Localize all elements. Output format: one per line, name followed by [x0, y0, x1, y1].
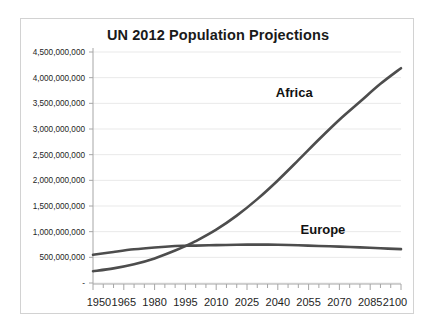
y-tick-label: 1,500,000,000: [33, 202, 86, 211]
y-tick-label: 2,500,000,000: [33, 151, 86, 160]
x-tick-label: 1995: [173, 296, 197, 308]
y-tick-label: 2,000,000,000: [33, 176, 86, 185]
y-tick-label: -: [82, 279, 85, 288]
x-tick-label: 2100: [383, 296, 407, 308]
series-label-africa: Africa: [276, 85, 314, 100]
population-line-chart: -500,000,0001,000,000,0001,500,000,0002,…: [21, 19, 415, 315]
series-label-europe: Europe: [301, 222, 346, 237]
series-annotations-group: AfricaEurope: [276, 85, 346, 237]
data-series-group: [93, 68, 401, 271]
y-tick-label: 4,000,000,000: [33, 74, 86, 83]
x-tick-label: 2055: [296, 296, 320, 308]
y-axis-tick-labels: -500,000,0001,000,000,0001,500,000,0002,…: [33, 48, 86, 288]
x-tick-label: 2070: [327, 296, 351, 308]
x-tick-label: 1950: [87, 296, 111, 308]
y-axis-tick-marks: [89, 52, 93, 283]
y-tick-label: 3,500,000,000: [33, 99, 86, 108]
y-tick-label: 500,000,000: [39, 253, 85, 262]
y-tick-label: 1,000,000,000: [33, 228, 86, 237]
y-tick-label: 3,000,000,000: [33, 125, 86, 134]
x-tick-label: 1965: [112, 296, 136, 308]
x-tick-label: 2025: [235, 296, 259, 308]
series-line-europe: [93, 245, 401, 255]
x-tick-label: 1980: [142, 296, 166, 308]
x-axis-tick-marks: [93, 284, 401, 290]
x-axis-tick-labels: 1950196519801995201020252040205520702085…: [87, 296, 407, 308]
x-tick-label: 2085: [358, 296, 382, 308]
y-tick-label: 4,500,000,000: [33, 48, 86, 57]
x-tick-label: 2010: [204, 296, 228, 308]
chart-card: UN 2012 Population Projections -500,000,…: [20, 18, 414, 314]
series-line-africa: [93, 68, 401, 271]
x-tick-label: 2040: [266, 296, 290, 308]
